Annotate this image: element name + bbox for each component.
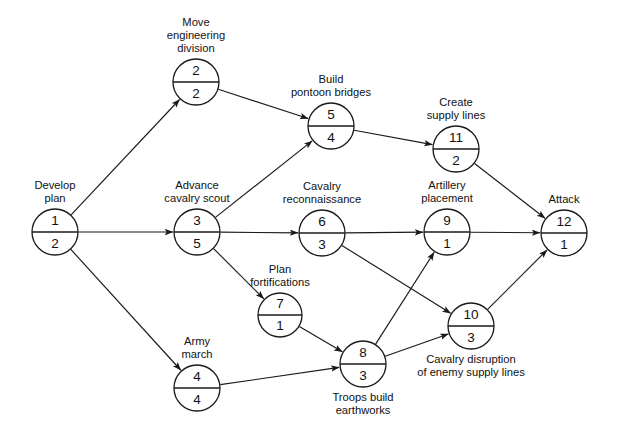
node-number-8: 8 [359,345,367,360]
node-label-3: Advance [175,179,219,191]
node-number-9: 9 [443,213,451,228]
edge-n3-to-n7 [214,249,264,299]
node-duration-7: 1 [276,318,284,333]
edge-n3-to-n5 [215,141,312,218]
node-duration-11: 2 [452,153,460,168]
node-number-5: 5 [327,107,335,122]
node-number-12: 12 [556,214,571,229]
edge-n11-to-n12 [475,163,546,218]
node-12[interactable]: 121Attack [541,193,587,256]
node-label-4: Army [184,335,211,347]
node-duration-10: 3 [467,330,475,345]
edge-n8-to-n9 [376,252,434,344]
node-1[interactable]: 12Developplan [32,179,78,255]
node-label-10: Cavalry disruption [426,353,516,365]
node-8[interactable]: 83Troops buildearthworks [332,341,393,416]
edge-n6-to-n9 [346,232,424,233]
node-label-12: Attack [548,193,579,205]
node-label-2: engineering [167,29,225,41]
edge-n4-to-n8 [220,367,339,384]
edge-n7-to-n8 [299,326,342,351]
node-10[interactable]: 103Cavalry disruptionof enemy supply lin… [417,303,525,378]
node-label-8: earthworks [336,404,391,416]
node-duration-2: 2 [192,86,200,101]
node-label-6: reconnaissance [283,193,361,205]
node-number-6: 6 [318,214,326,229]
node-9[interactable]: 91Artilleryplacement [421,179,474,255]
node-duration-8: 3 [359,368,367,383]
edge-n6-to-n10 [342,245,451,313]
node-2[interactable]: 22Moveengineeringdivision [167,16,225,105]
node-number-2: 2 [192,63,200,78]
edge-n5-to-n11 [354,130,432,144]
node-number-4: 4 [193,369,201,384]
edge-n1-to-n4 [71,249,181,370]
network-diagram-canvas: 12Developplan22Moveengineeringdivision35… [0,0,620,438]
node-label-6: Cavalry [303,180,341,192]
node-label-4: march [181,348,212,360]
node-duration-5: 4 [327,130,335,145]
edge-n9-to-n12 [471,232,541,233]
node-label-5: Build [319,73,344,85]
node-label-7: fortifications [250,276,310,288]
node-duration-9: 1 [443,236,451,251]
edge-n10-to-n12 [488,250,547,309]
node-duration-4: 4 [193,392,201,407]
node-label-9: placement [421,192,474,204]
node-label-2: division [177,42,214,54]
node-label-10: of enemy supply lines [417,366,525,378]
node-label-11: Create [439,96,473,108]
node-duration-1: 2 [51,236,59,251]
node-duration-3: 5 [193,236,201,251]
node-label-2: Move [182,16,209,28]
node-5[interactable]: 54Buildpontoon bridges [291,73,372,149]
node-duration-6: 3 [318,237,326,252]
node-11[interactable]: 112Createsupply lines [427,96,486,172]
node-3[interactable]: 35Advancecavalry scout [164,179,230,255]
network-diagram-svg: 12Developplan22Moveengineeringdivision35… [0,0,620,438]
nodes-layer: 12Developplan22Moveengineeringdivision35… [32,16,587,416]
node-duration-12: 1 [560,237,568,252]
node-label-5: pontoon bridges [291,86,372,98]
node-label-8: Troops build [332,391,393,403]
edge-n3-to-n6 [221,232,299,233]
node-number-7: 7 [276,296,284,311]
node-label-11: supply lines [427,109,486,121]
node-label-1: plan [44,192,65,204]
node-number-1: 1 [51,213,59,228]
node-number-3: 3 [193,213,201,228]
node-6[interactable]: 63Cavalryreconnaissance [283,180,361,256]
node-label-1: Develop [34,179,75,191]
node-label-9: Artillery [428,179,466,191]
node-label-7: Plan [269,263,291,275]
node-number-11: 11 [449,130,463,145]
node-label-3: cavalry scout [164,192,230,204]
edge-n1-to-n2 [71,99,179,214]
node-7[interactable]: 71Planfortifications [250,263,310,337]
node-number-10: 10 [463,307,478,322]
node-4[interactable]: 44Armymarch [174,335,220,411]
